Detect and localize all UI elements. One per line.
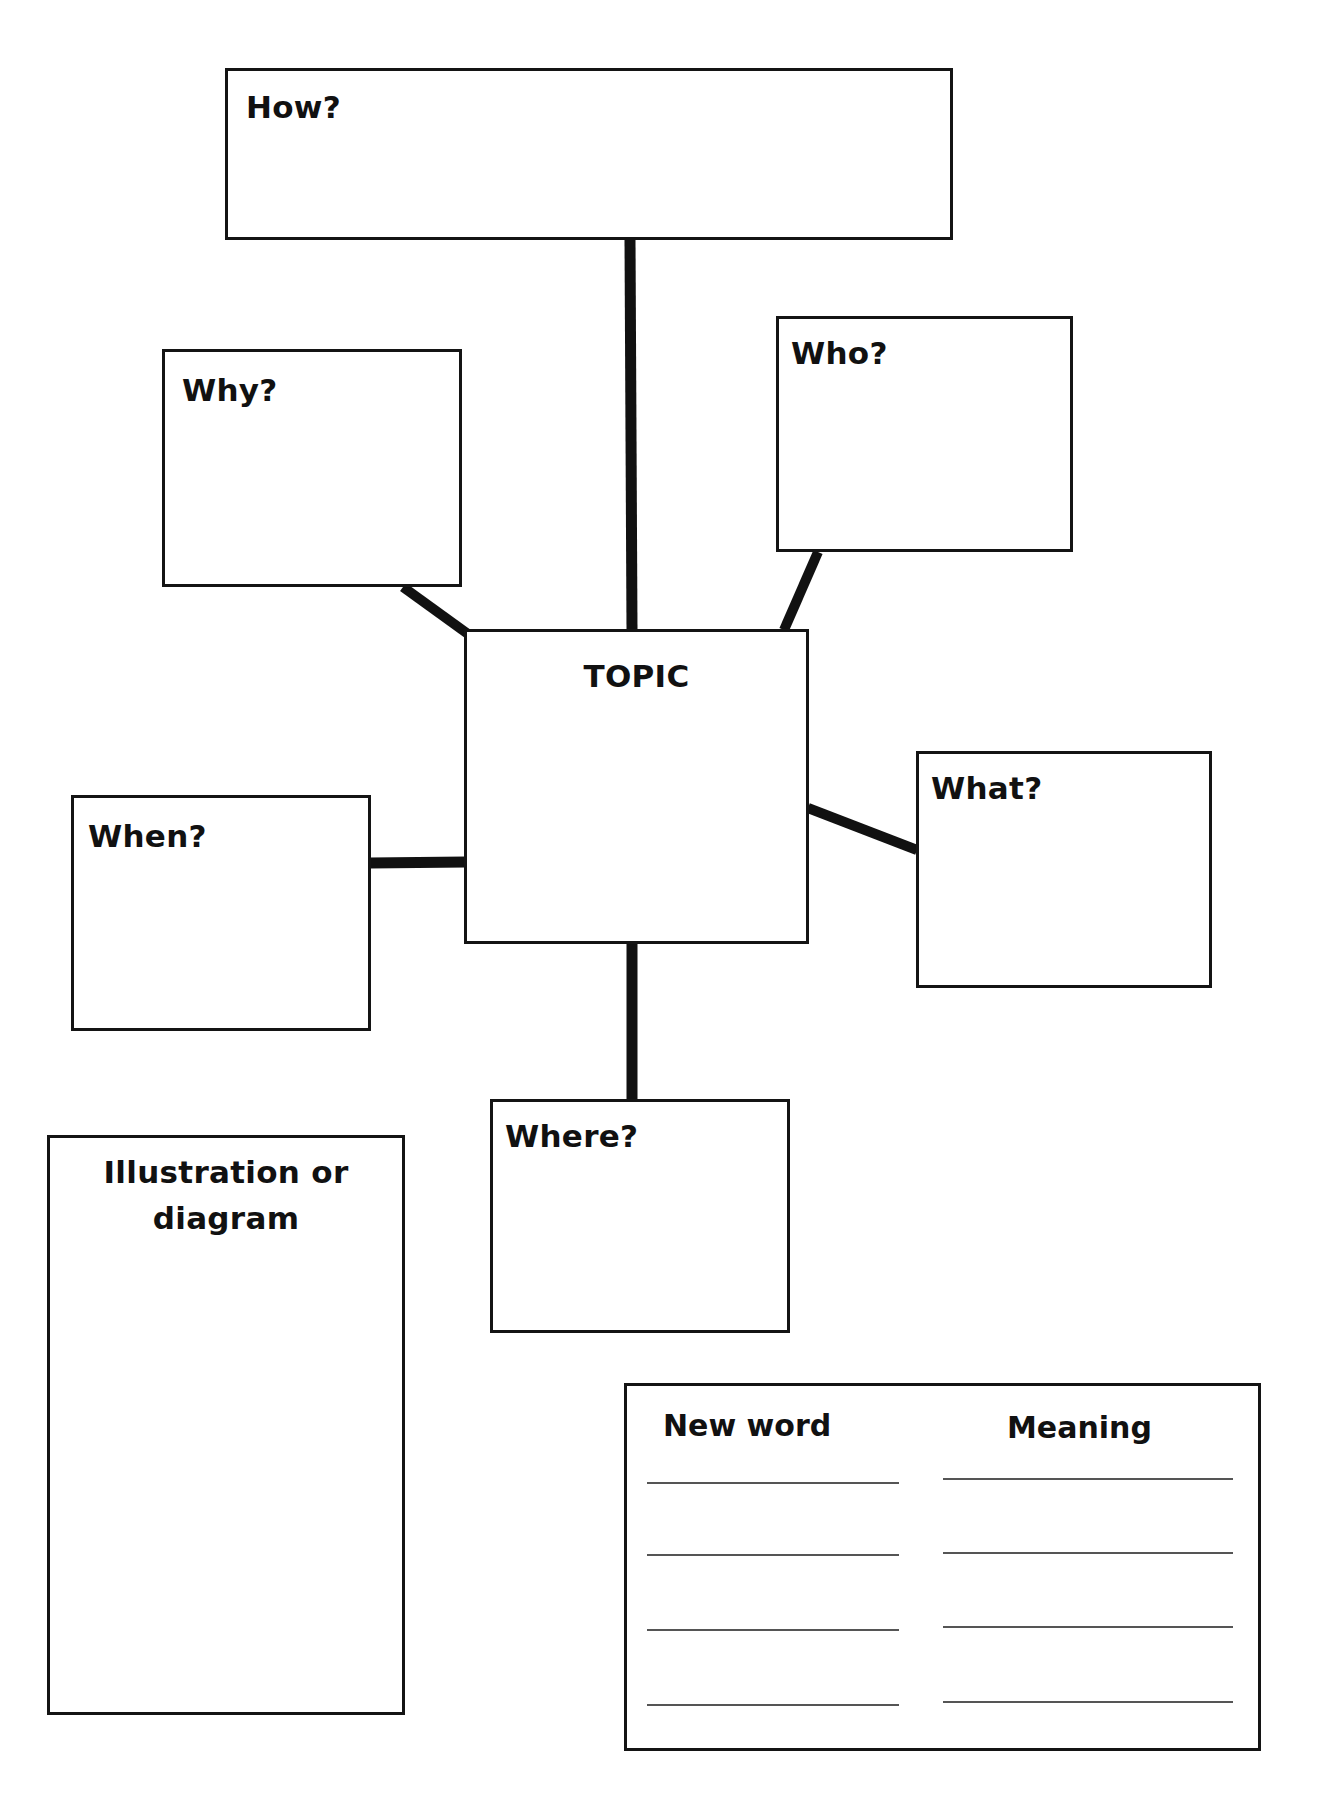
topic-label: TOPIC	[467, 658, 806, 694]
who-box[interactable]: Who?	[776, 316, 1073, 552]
meaning-line-2[interactable]	[943, 1552, 1233, 1554]
connector-what-topic	[808, 808, 917, 850]
when-box[interactable]: When?	[71, 795, 371, 1031]
connector-when-topic	[370, 862, 466, 863]
where-box[interactable]: Where?	[490, 1099, 790, 1333]
what-label: What?	[931, 770, 1042, 806]
connector-how-topic	[630, 240, 632, 630]
new-word-line-4[interactable]	[647, 1704, 899, 1706]
illustration-label-line1: Illustration or	[50, 1154, 402, 1190]
where-label: Where?	[505, 1118, 638, 1154]
meaning-heading: Meaning	[1007, 1410, 1152, 1445]
illustration-box[interactable]: Illustration or diagram	[47, 1135, 405, 1715]
meaning-line-4[interactable]	[943, 1701, 1233, 1703]
how-box[interactable]: How?	[225, 68, 953, 240]
new-word-heading: New word	[663, 1408, 831, 1443]
vocabulary-box: New word Meaning	[624, 1383, 1261, 1751]
how-label: How?	[246, 89, 341, 125]
illustration-label-line2: diagram	[50, 1200, 402, 1236]
topic-box[interactable]: TOPIC	[464, 629, 809, 944]
new-word-line-2[interactable]	[647, 1554, 899, 1556]
meaning-line-1[interactable]	[943, 1478, 1233, 1480]
why-label: Why?	[182, 372, 278, 408]
connector-who-topic	[784, 552, 818, 630]
new-word-line-1[interactable]	[647, 1482, 899, 1484]
when-label: When?	[88, 818, 207, 854]
meaning-line-3[interactable]	[943, 1626, 1233, 1628]
new-word-line-3[interactable]	[647, 1629, 899, 1631]
connector-why-topic	[403, 587, 468, 634]
who-label: Who?	[791, 335, 888, 371]
why-box[interactable]: Why?	[162, 349, 462, 587]
what-box[interactable]: What?	[916, 751, 1212, 988]
